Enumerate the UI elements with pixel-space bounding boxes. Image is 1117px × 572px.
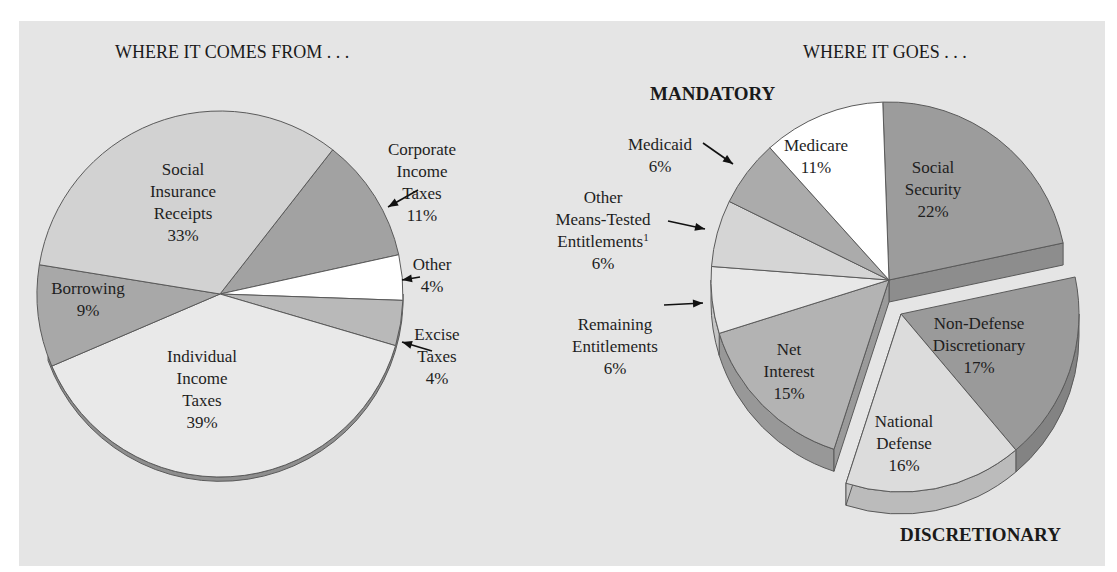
label-excise-taxes: ExciseTaxes4% — [414, 325, 459, 388]
label-percent: 16% — [888, 456, 919, 475]
budget-pie-charts: WHERE IT COMES FROM . . . WHERE IT GOES … — [0, 0, 1117, 572]
left-chart-title: WHERE IT COMES FROM . . . — [115, 42, 349, 62]
label-line: Net — [777, 340, 802, 359]
label-line: Non-Defense — [934, 314, 1025, 333]
discretionary-label: DISCRETIONARY — [900, 524, 1061, 545]
arrow-remaining-entitlements-head — [693, 300, 703, 308]
label-medicaid: Medicaid6% — [628, 135, 693, 176]
label-line: Other — [413, 255, 452, 274]
label-line: Taxes — [417, 347, 456, 366]
label-other-means-tested-entitlements: OtherMeans-TestedEntitlements16% — [555, 188, 651, 273]
label-corporate-income-taxes: CorporateIncomeTaxes11% — [388, 140, 456, 225]
label-percent: 11% — [801, 158, 832, 177]
label-percent: 6% — [649, 157, 672, 176]
label-line: Taxes — [182, 391, 221, 410]
label-line: Defense — [876, 434, 932, 453]
label-line: Discretionary — [933, 336, 1026, 355]
label-percent: 4% — [426, 369, 449, 388]
label-percent: 11% — [407, 206, 438, 225]
arrow-other-head — [402, 274, 413, 282]
label-line: Entitlements — [572, 337, 658, 356]
label-percent: 9% — [77, 301, 100, 320]
label-line: Receipts — [154, 204, 213, 223]
label-line: Entitlements — [557, 232, 643, 251]
arrow-excise-head — [402, 341, 413, 349]
label-line: Income — [397, 162, 448, 181]
label-line: Individual — [167, 347, 237, 366]
label-percent: 4% — [421, 277, 444, 296]
arrow-corporate-head — [388, 199, 399, 207]
arrow-other-means-tested-head — [694, 223, 705, 231]
label-line: Excise — [414, 325, 459, 344]
label-line: Means-Tested — [555, 210, 651, 229]
label-line: Medicare — [784, 136, 848, 155]
label-line: Borrowing — [51, 279, 125, 298]
label-percent: 39% — [186, 413, 217, 432]
mandatory-label: MANDATORY — [650, 83, 776, 104]
label-line: Security — [905, 180, 962, 199]
label-line: Income — [177, 369, 228, 388]
label-other: Other4% — [413, 255, 452, 296]
label-percent: 33% — [167, 226, 198, 245]
label-line: National — [875, 412, 934, 431]
arrow-medicaid-head — [723, 155, 733, 164]
label-line: Insurance — [150, 182, 216, 201]
label-line: Remaining — [578, 315, 653, 334]
label-line: Social — [162, 160, 205, 179]
label-percent: 6% — [592, 254, 615, 273]
label-line: Taxes — [402, 184, 441, 203]
label-line: Social — [912, 158, 955, 177]
label-percent: 22% — [917, 202, 948, 221]
label-line: Other — [584, 188, 623, 207]
label-percent: 17% — [963, 358, 994, 377]
label-remaining-entitlements: RemainingEntitlements6% — [572, 315, 658, 378]
label-percent: 6% — [604, 359, 627, 378]
label-percent: 15% — [773, 384, 804, 403]
footnote-marker: 1 — [643, 231, 649, 243]
label-line: Interest — [764, 362, 815, 381]
label-line: Corporate — [388, 140, 456, 159]
right-chart-title: WHERE IT GOES . . . — [803, 42, 967, 62]
label-line: Medicaid — [628, 135, 693, 154]
